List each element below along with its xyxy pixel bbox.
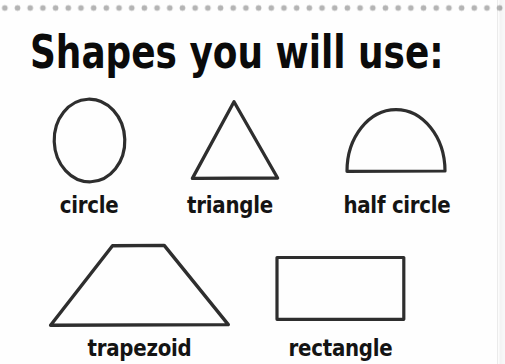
- half-circle-shape-icon: [344, 107, 448, 174]
- shape-label-half-circle: half circle: [343, 192, 450, 218]
- shape-label-triangle: triangle: [177, 192, 283, 218]
- shape-figure-circle: circle: [29, 96, 149, 222]
- shape-figure-half-circle: half circle: [336, 96, 458, 222]
- shape-figure-trapezoid: trapezoid: [48, 241, 231, 364]
- shape-label-rectangle: rectangle: [283, 335, 398, 361]
- page-edge: [497, 0, 505, 364]
- worksheet-page: Shapes you will use: circle triangle hal…: [0, 0, 505, 364]
- shape-figure-rectangle: rectangle: [275, 241, 406, 364]
- rectangle-shape-icon: [275, 255, 406, 322]
- page-title: Shapes you will use:: [30, 26, 444, 79]
- shape-label-trapezoid: trapezoid: [59, 335, 220, 361]
- shape-label-circle: circle: [36, 192, 142, 218]
- triangle-shape-icon: [190, 99, 280, 181]
- circle-shape-icon: [52, 97, 127, 185]
- dotted-border: [0, 0, 505, 17]
- shape-figure-triangle: triangle: [170, 96, 290, 222]
- trapezoid-shape-icon: [48, 243, 231, 328]
